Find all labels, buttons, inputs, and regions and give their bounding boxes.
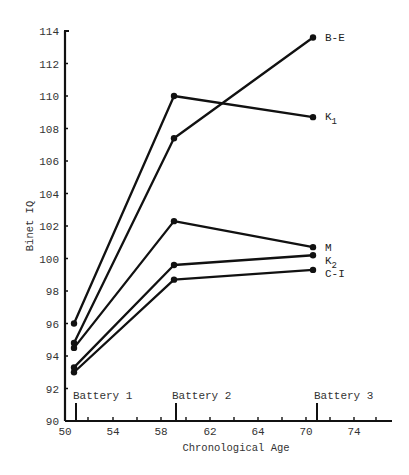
- series-line: [74, 96, 313, 324]
- y-tick-label: 112: [39, 59, 59, 71]
- series-label: M: [325, 242, 332, 254]
- y-tick-label: 114: [39, 26, 59, 38]
- y-tick-label: 90: [46, 416, 59, 428]
- y-tick-label: 98: [46, 286, 59, 298]
- y-axis-title: Binet IQ: [24, 201, 36, 251]
- y-tick-label: 92: [46, 384, 59, 396]
- y-tick-label: 106: [39, 156, 59, 168]
- x-tick-label: 62: [203, 426, 216, 438]
- data-point: [310, 267, 316, 273]
- x-tick-label: 50: [58, 426, 71, 438]
- x-tick-label: 64: [251, 426, 265, 438]
- axes: 9092949698100102104106108110112114505458…: [39, 26, 392, 438]
- data-point: [71, 369, 77, 375]
- data-point: [310, 252, 316, 258]
- battery-label: Battery 3: [314, 390, 373, 402]
- data-point: [310, 34, 316, 40]
- data-point: [171, 218, 177, 224]
- series-label: C-I: [325, 268, 345, 280]
- x-tick-label: 70: [299, 426, 312, 438]
- data-point: [310, 114, 316, 120]
- x-tick-label: 54: [106, 426, 120, 438]
- y-tick-label: 104: [39, 189, 59, 201]
- battery-label: Battery 2: [172, 390, 231, 402]
- y-tick-label: 108: [39, 124, 59, 136]
- data-point: [71, 320, 77, 326]
- series-line: [74, 270, 313, 372]
- data-point: [171, 262, 177, 268]
- x-axis-title: Chronological Age: [182, 442, 289, 454]
- data-point: [310, 244, 316, 250]
- battery-label: Battery 1: [73, 390, 133, 402]
- series-label: K1: [325, 111, 337, 127]
- y-tick-label: 110: [39, 91, 59, 103]
- series-group: [71, 34, 316, 375]
- y-tick-label: 96: [46, 319, 59, 331]
- series-line: [74, 38, 313, 344]
- data-point: [171, 135, 177, 141]
- y-tick-label: 102: [39, 221, 59, 233]
- series-label: B-E: [325, 32, 345, 44]
- data-point: [171, 276, 177, 282]
- line-chart: 9092949698100102104106108110112114505458…: [0, 0, 409, 475]
- x-tick-label: 74: [347, 426, 361, 438]
- y-tick-label: 94: [46, 351, 60, 363]
- series-label-subscript: 1: [332, 117, 337, 127]
- y-tick-label: 100: [39, 254, 59, 266]
- data-point: [71, 345, 77, 351]
- x-tick-label: 58: [154, 426, 167, 438]
- labels-group: Chronological AgeBinet IQBattery 1Batter…: [24, 32, 373, 454]
- data-point: [171, 93, 177, 99]
